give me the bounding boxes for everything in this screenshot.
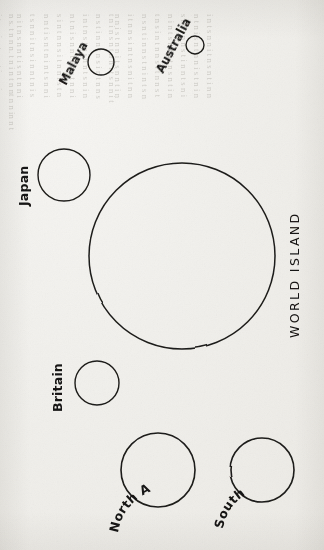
region-labels: WORLD ISLAND Japan Malaya Australia Brit… <box>0 0 302 534</box>
circle-britain <box>75 361 119 405</box>
circle-japan <box>38 149 90 201</box>
circle-world-island <box>89 163 275 349</box>
label-north-america-textpath: North America <box>0 0 153 534</box>
label-north-america: North America <box>0 0 153 534</box>
scanned-page: n s. t n n n. t n i n t n nt n n in n ti… <box>0 0 324 550</box>
label-south-america-textpath: South America <box>0 0 251 530</box>
label-world-island: WORLD ISLAND <box>287 211 302 338</box>
circle-australia <box>186 36 204 54</box>
region-circles <box>38 36 294 507</box>
circle-malaya <box>88 49 114 75</box>
label-japan: Japan <box>16 166 31 207</box>
label-south-america: South America <box>0 0 251 530</box>
label-britain: Britain <box>50 363 65 412</box>
world-island-diagram: WORLD ISLAND Japan Malaya Australia Brit… <box>0 0 324 550</box>
label-malaya: Malaya <box>56 39 90 87</box>
label-australia: Australia <box>153 16 194 76</box>
